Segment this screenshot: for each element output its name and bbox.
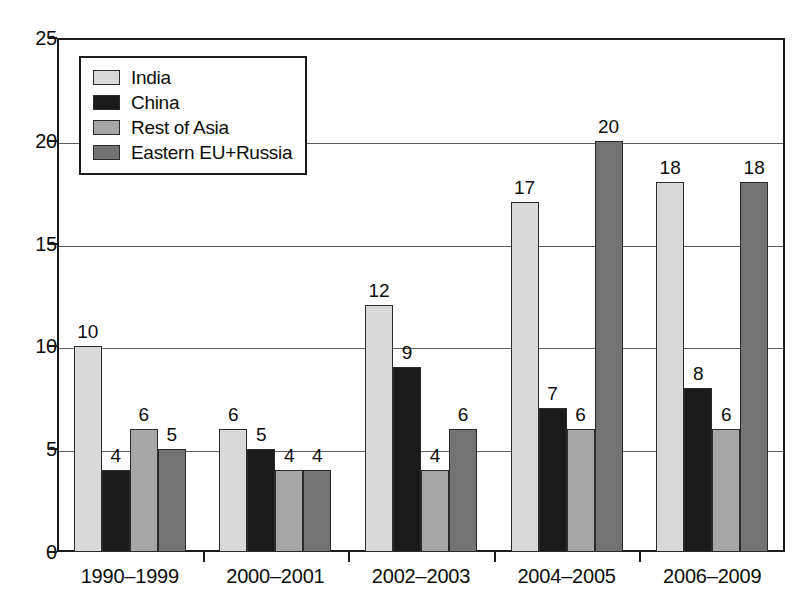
legend-label: Rest of Asia (131, 118, 229, 137)
bar (511, 202, 539, 552)
x-tick-label-4: 2004–2005 (517, 565, 615, 588)
chart-page: 0510152025 10465654412946177620188618 19… (0, 0, 809, 611)
bar (247, 449, 275, 552)
bar (303, 470, 331, 552)
y-tick-mark-15 (48, 243, 57, 245)
x-tick-mark (494, 552, 496, 562)
bar-value-label: 12 (368, 280, 389, 302)
legend-label: Eastern EU+Russia (131, 143, 292, 162)
legend-swatch-india (93, 70, 120, 85)
legend-swatch-rest-of-asia (93, 120, 120, 135)
legend-swatch-china (93, 95, 120, 110)
legend-item-eastern-eu-russia: Eastern EU+Russia (93, 140, 295, 165)
legend-label: India (131, 68, 171, 87)
x-tick-label-1: 1990–1999 (81, 565, 179, 588)
y-tick-mark-5 (48, 448, 57, 450)
bar-value-label: 5 (256, 424, 267, 446)
bar-value-label: 4 (284, 445, 295, 467)
legend-swatch-eastern-eu-russia (93, 145, 120, 160)
bar (595, 141, 623, 552)
bar (219, 429, 247, 552)
bar-value-label: 4 (312, 445, 323, 467)
chart-legend: IndiaChinaRest of AsiaEastern EU+Russia (79, 56, 307, 175)
y-axis: 0510152025 (0, 0, 57, 611)
bar (684, 388, 712, 552)
bar-value-label: 4 (430, 445, 441, 467)
x-tick-label-5: 2006–2009 (663, 565, 761, 588)
x-tick-label-2: 2000–2001 (226, 565, 324, 588)
y-tick-mark-10 (48, 345, 57, 347)
bar-value-label: 18 (744, 157, 765, 179)
bar-value-label: 20 (598, 116, 619, 138)
bar (275, 470, 303, 552)
bar-value-label: 6 (228, 404, 239, 426)
bar-value-label: 18 (660, 157, 681, 179)
bar-value-label: 6 (458, 404, 469, 426)
bar-value-label: 5 (167, 424, 178, 446)
bar (393, 367, 421, 552)
bar (102, 470, 130, 552)
bar-value-label: 10 (77, 321, 98, 343)
legend-label: China (131, 93, 179, 112)
bar (130, 429, 158, 552)
y-tick-mark-20 (48, 140, 57, 142)
legend-item-rest-of-asia: Rest of Asia (93, 115, 295, 140)
bar-value-label: 4 (111, 445, 122, 467)
bar (74, 346, 102, 552)
bar (712, 429, 740, 552)
x-tick-label-3: 2002–2003 (372, 565, 470, 588)
bar-value-label: 17 (514, 177, 535, 199)
bar (421, 470, 449, 552)
legend-item-china: China (93, 90, 295, 115)
bar (158, 449, 186, 552)
legend-item-india: India (93, 65, 295, 90)
x-tick-mark (348, 552, 350, 562)
bar (365, 305, 393, 552)
bar-value-label: 8 (693, 363, 704, 385)
bar-value-label: 9 (402, 342, 413, 364)
x-tick-mark (639, 552, 641, 562)
bar-value-label: 6 (575, 404, 586, 426)
bar (539, 408, 567, 552)
bar (567, 429, 595, 552)
x-tick-mark (203, 552, 205, 562)
bar-value-label: 6 (139, 404, 150, 426)
bar (656, 182, 684, 552)
y-tick-mark-0 (48, 551, 57, 553)
y-tick-mark-25 (48, 37, 57, 39)
bar (740, 182, 768, 552)
bar (449, 429, 477, 552)
bar-value-label: 6 (721, 404, 732, 426)
bar-value-label: 7 (547, 383, 558, 405)
